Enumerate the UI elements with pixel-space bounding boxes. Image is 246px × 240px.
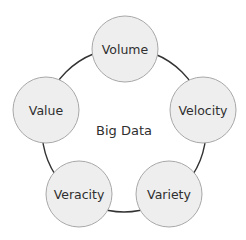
node-label: Value <box>29 103 64 118</box>
node-volume: Volume <box>92 16 158 82</box>
node-variety: Variety <box>136 161 202 227</box>
node-veracity: Veracity <box>46 161 112 227</box>
node-label: Variety <box>147 187 191 202</box>
big-data-diagram: VolumeVelocityVarietyVeracityValue Big D… <box>0 0 246 240</box>
center-label: Big Data <box>96 123 152 138</box>
node-label: Veracity <box>54 187 105 202</box>
node-label: Volume <box>102 42 149 57</box>
node-label: Velocity <box>178 103 228 118</box>
node-velocity: Velocity <box>170 77 236 143</box>
node-value: Value <box>13 77 79 143</box>
